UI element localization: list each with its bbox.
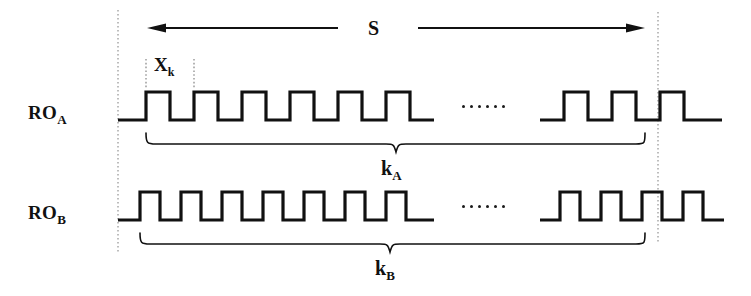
count-b-base: k <box>375 257 386 279</box>
waveform-a-ellipsis <box>462 105 505 108</box>
waveform-b-ellipsis <box>462 205 505 208</box>
ellipsis-dot <box>462 205 465 208</box>
signal-b-base: RO <box>28 202 57 223</box>
signal-b-subscript: B <box>57 212 66 227</box>
ellipsis-dot <box>470 105 473 108</box>
window-span-right-arrow <box>418 24 645 33</box>
window-span-left-arrow <box>147 24 338 33</box>
ellipsis-dot <box>470 205 473 208</box>
count-a-label: kA <box>381 157 402 184</box>
count-a-subscript: A <box>392 168 401 183</box>
timing-diagram-figure: S Xk ROA ROB kA kB <box>0 0 751 296</box>
ellipsis-dot <box>494 205 497 208</box>
diagram-canvas <box>0 0 751 296</box>
count-b-label: kB <box>375 257 395 284</box>
ellipsis-dot <box>502 205 505 208</box>
count-b-brace <box>140 233 645 252</box>
signal-label-ro-a: ROA <box>28 102 67 128</box>
period-marker-base: X <box>154 54 168 75</box>
waveform-ro-b <box>118 192 724 220</box>
waveform-ro-a <box>118 92 722 120</box>
ellipsis-dot <box>478 205 481 208</box>
ellipsis-dot <box>502 105 505 108</box>
signal-a-base: RO <box>28 102 57 123</box>
ellipsis-dot <box>478 105 481 108</box>
count-a-base: k <box>381 157 392 179</box>
signal-label-ro-b: ROB <box>28 202 66 228</box>
ellipsis-dot <box>486 205 489 208</box>
count-a-brace <box>146 133 645 152</box>
signal-a-subscript: A <box>57 112 66 127</box>
sampling-window-label: S <box>368 17 379 40</box>
ellipsis-dot <box>462 105 465 108</box>
period-marker-label: Xk <box>154 54 174 80</box>
period-marker-subscript: k <box>168 65 175 79</box>
ellipsis-dot <box>486 105 489 108</box>
ellipsis-dot <box>494 105 497 108</box>
count-b-subscript: B <box>386 268 395 283</box>
